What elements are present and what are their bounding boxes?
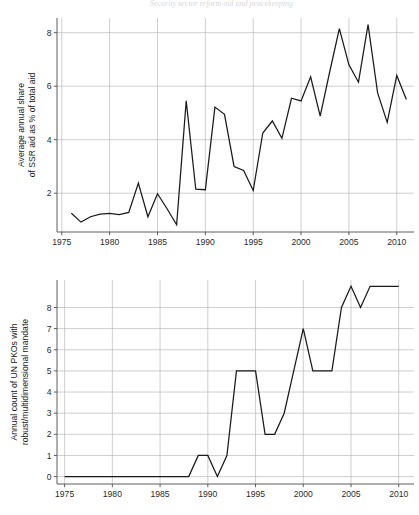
- data-line-ssr-aid: [71, 25, 406, 225]
- chart-panel-top: 246819751980198519901995200020052010 Ave…: [0, 0, 419, 258]
- x-tick-label: 1995: [244, 237, 263, 247]
- x-tick-label: 2005: [341, 489, 360, 499]
- y-axis-label-bottom: Annual count of UN PKOs with robust/mult…: [9, 319, 30, 445]
- x-tick-label: 2000: [294, 489, 313, 499]
- x-tick-label: 2010: [389, 489, 408, 499]
- ssr-aid-share-line-chart: 246819751980198519901995200020052010 Ave…: [0, 0, 419, 258]
- y-tick-label: 0: [47, 472, 52, 482]
- x-tick-label: 2010: [387, 237, 406, 247]
- y-tick-label: 6: [47, 345, 52, 355]
- x-tick-label: 1980: [103, 489, 122, 499]
- x-tick-label: 1990: [196, 237, 215, 247]
- y-tick-label: 4: [47, 135, 52, 145]
- x-tick-label: 1975: [55, 489, 74, 499]
- y-axis-label-top: Average annual share of SSR aid as % of …: [16, 72, 37, 177]
- y-axis-label-bottom-line2: robust/multidimensional mandate: [20, 319, 30, 445]
- data-line-un-pko: [65, 286, 399, 476]
- x-tick-label: 1985: [151, 489, 170, 499]
- y-axis-label-top-line1: Average annual share: [16, 83, 26, 167]
- x-tick-label: 1995: [246, 489, 265, 499]
- x-tick-label: 1985: [148, 237, 167, 247]
- y-axis-label-bottom-line1: Annual count of UN PKOs with: [9, 323, 19, 440]
- x-tick-label: 1975: [52, 237, 71, 247]
- y-tick-label: 1: [47, 451, 52, 461]
- y-axis-label-top-line2: of SSR aid as % of total aid: [27, 72, 37, 177]
- axes-top: [54, 18, 414, 235]
- un-pko-count-line-chart: 0123456781975198019851990199520002005201…: [0, 258, 419, 515]
- y-tick-label: 8: [47, 303, 52, 313]
- x-tick-label: 1990: [198, 489, 217, 499]
- y-tick-label: 6: [47, 81, 52, 91]
- x-tick-label: 2005: [339, 237, 358, 247]
- y-tick-label: 2: [47, 188, 52, 198]
- y-tick-label: 3: [47, 408, 52, 418]
- y-tick-label: 7: [47, 324, 52, 334]
- figure-container: Security sector reform aid and peacekeep…: [0, 0, 419, 515]
- x-tick-label: 1980: [100, 237, 119, 247]
- y-tick-label: 4: [47, 387, 52, 397]
- axes-bottom: [54, 280, 414, 487]
- x-tick-label: 2000: [291, 237, 310, 247]
- y-tick-label: 5: [47, 366, 52, 376]
- tick-labels-bottom: 0123456781975198019851990199520002005201…: [47, 303, 409, 499]
- y-tick-label: 8: [47, 28, 52, 38]
- chart-panel-bottom: 0123456781975198019851990199520002005201…: [0, 258, 419, 515]
- y-tick-label: 2: [47, 429, 52, 439]
- gridlines-top: [57, 18, 414, 232]
